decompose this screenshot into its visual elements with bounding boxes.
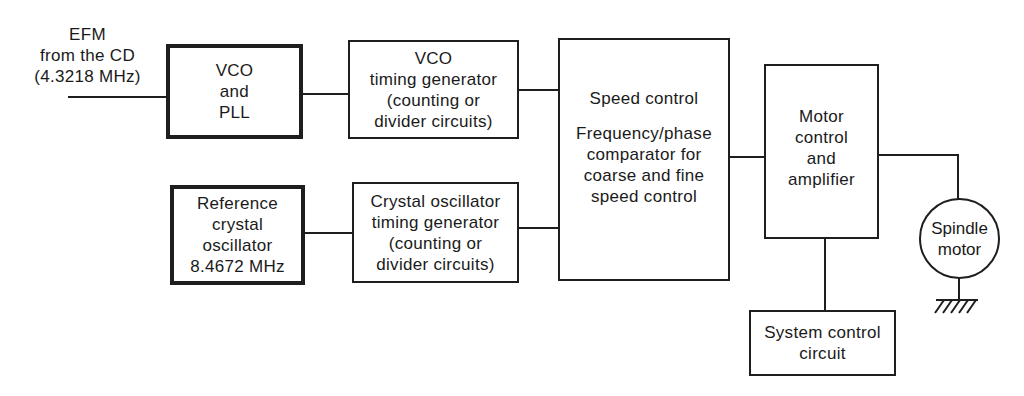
efm-label-line: EFM [20, 24, 155, 45]
block-text: Spindle [931, 218, 988, 239]
vco-timing-generator-block: VCO timing generator (counting or divide… [348, 40, 519, 139]
block-text: divider circuits) [376, 254, 494, 275]
block-text: oscillator [202, 235, 272, 256]
block-text: VCO [415, 48, 453, 69]
block-text: (counting or [387, 90, 480, 111]
vco-pll-block: VCO and PLL [166, 44, 303, 139]
block-text: speed control [591, 186, 697, 207]
efm-label-line: from the CD [20, 45, 155, 66]
block-text: Motor [799, 106, 844, 127]
wire-motor-to-spindle [878, 155, 958, 199]
block-text: divider circuits) [374, 111, 492, 132]
block-text: and [220, 81, 249, 102]
block-text: Reference [197, 193, 278, 214]
block-text: timing generator [370, 69, 498, 90]
spindle-motor-icon: Spindle motor [919, 198, 1000, 279]
reference-crystal-oscillator-block: Reference crystal oscillator 8.4672 MHz [170, 185, 305, 285]
block-text: crystal [212, 214, 263, 235]
ground-icon [935, 300, 976, 313]
block-text: 8.4672 MHz [190, 256, 285, 277]
block-text: coarse and fine [584, 165, 705, 186]
block-text: VCO [216, 60, 254, 81]
block-text: System control [764, 322, 881, 343]
block-text: control [795, 127, 848, 148]
block-text: motor [938, 239, 981, 260]
system-control-circuit-block: System control circuit [749, 310, 896, 376]
crystal-timing-generator-block: Crystal oscillator timing generator (cou… [352, 182, 519, 283]
block-text: and [807, 148, 836, 169]
block-text: (counting or [389, 233, 482, 254]
block-text: Frequency/phase [576, 123, 712, 144]
block-text: timing generator [372, 212, 500, 233]
block-text: PLL [219, 102, 250, 123]
block-text: circuit [799, 343, 846, 364]
speed-control-title: Speed control [590, 88, 699, 109]
block-text: amplifier [788, 169, 855, 190]
speed-control-block: Speed control Frequency/phase comparator… [558, 38, 730, 281]
efm-label-line: (4.3218 MHz) [20, 66, 155, 87]
block-text: comparator for [587, 144, 702, 165]
motor-control-amplifier-block: Motor control and amplifier [764, 64, 879, 239]
block-text: Crystal oscillator [370, 191, 500, 212]
efm-input-label: EFM from the CD (4.3218 MHz) [20, 24, 155, 87]
